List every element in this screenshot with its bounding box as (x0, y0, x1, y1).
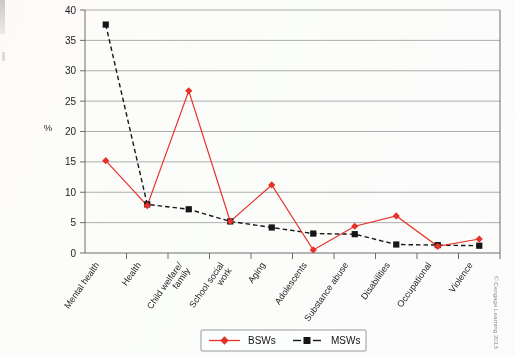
data-point-marker (476, 235, 483, 242)
legend-label-msws: MSWs (331, 335, 360, 346)
data-point-marker (351, 223, 358, 230)
copyright-credit: © Cengage Learning 2013 (493, 276, 500, 349)
x-tick-label-group: Aging (246, 260, 267, 285)
scan-artifact-secondary (2, 52, 5, 61)
y-tick-label: 35 (65, 35, 77, 46)
legend-label-bsws: BSWs (248, 335, 276, 346)
x-tick-label: Health (120, 260, 143, 287)
x-tick-label: Violence (447, 260, 475, 294)
x-tick-label-group: Occupational (395, 260, 433, 309)
x-tick-label: Aging (246, 260, 267, 285)
data-point-marker (352, 231, 358, 237)
x-tick-label: Adolescents (273, 260, 310, 306)
legend: BSWs MSWs (201, 330, 366, 351)
x-axis-tick-labels: Mental healthHealthChild welfare/familyS… (62, 260, 475, 323)
series-line-msws (106, 25, 480, 246)
x-tick-label-group: Adolescents (273, 260, 310, 306)
y-tick-label: 25 (65, 96, 77, 107)
series-line-bsws (106, 91, 480, 250)
series-markers-msws (103, 21, 483, 248)
y-tick-label: 15 (65, 156, 77, 167)
x-tick-label: Mental health (62, 260, 101, 310)
y-tick-label: 40 (65, 5, 77, 16)
x-tick-label-group: Violence (447, 260, 475, 294)
scan-artifact (0, 0, 5, 34)
line-chart: 0510152025303540 % Mental healthHealthCh… (0, 0, 515, 356)
x-tick-label: Occupational (395, 260, 433, 309)
y-tick-label: 20 (65, 126, 77, 137)
y-tick-label: 0 (70, 248, 76, 259)
data-point-marker (103, 21, 109, 27)
data-point-marker (310, 230, 316, 236)
y-axis-ticks (80, 10, 85, 253)
x-tick-label: Substance abuse (302, 260, 350, 323)
x-tick-label-group: Health (120, 260, 143, 287)
data-point-marker (476, 243, 482, 249)
x-tick-label-group: Child welfare/family (145, 260, 193, 316)
data-point-marker (186, 206, 192, 212)
chart-figure: 0510152025303540 % Mental healthHealthCh… (0, 0, 515, 356)
series-markers-bsws (102, 87, 483, 253)
y-axis-title: % (44, 122, 53, 133)
data-point-marker (310, 246, 317, 253)
y-tick-label: 10 (65, 187, 77, 198)
x-tick-label-group: Disabilities (359, 260, 392, 301)
x-tick-label-group: Substance abuse (302, 260, 350, 323)
x-tick-label-group: School socialwork (187, 260, 234, 315)
y-tick-label: 30 (65, 65, 77, 76)
legend-marker-msws (304, 337, 311, 344)
y-axis-tick-labels: 0510152025303540 (65, 5, 77, 259)
data-point-marker (185, 87, 192, 94)
gridlines (85, 10, 500, 223)
y-tick-label: 5 (70, 217, 76, 228)
x-axis-ticks (127, 253, 501, 259)
data-point-marker (269, 224, 275, 230)
data-point-marker (393, 241, 399, 247)
x-tick-label-group: Mental health (62, 260, 101, 310)
x-tick-label: Disabilities (359, 260, 392, 301)
